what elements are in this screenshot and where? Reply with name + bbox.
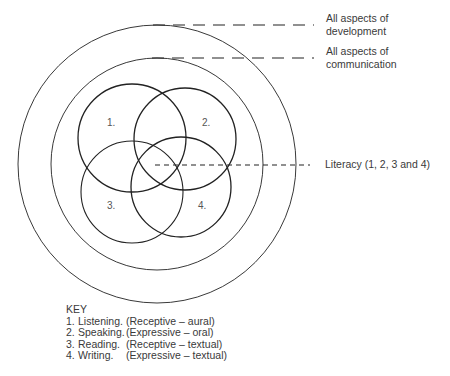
development-label-line-1: All aspects of — [326, 12, 388, 25]
communication-label-line-2: communication — [326, 58, 397, 71]
circle-number-2: 2. — [202, 117, 210, 128]
circle-number-3: 3. — [107, 200, 115, 211]
circle-number-4: 4. — [198, 200, 206, 211]
key-item-number: 4. — [66, 350, 76, 362]
key-item: 4. Writing. (Expressive – textual) — [66, 350, 227, 362]
development-label-line-2: development — [326, 25, 388, 38]
circle-number-1: 1. — [107, 117, 115, 128]
communication-label-line-1: All aspects of — [326, 45, 397, 58]
communication-label: All aspects of communication — [326, 45, 397, 71]
key-title: KEY — [66, 304, 227, 316]
speaking-circle — [134, 88, 236, 190]
development-label: All aspects of development — [326, 12, 388, 38]
literacy-label: Literacy (1, 2, 3 and 4) — [325, 158, 430, 171]
writing-circle — [131, 137, 231, 237]
development-circle — [18, 25, 296, 303]
key-item-name: Writing. — [76, 350, 126, 362]
literacy-label-text: Literacy (1, 2, 3 and 4) — [325, 158, 430, 171]
key-item-description: (Expressive – textual) — [126, 350, 227, 362]
key-legend: KEY 1. Listening. (Receptive – aural) 2.… — [66, 304, 227, 362]
